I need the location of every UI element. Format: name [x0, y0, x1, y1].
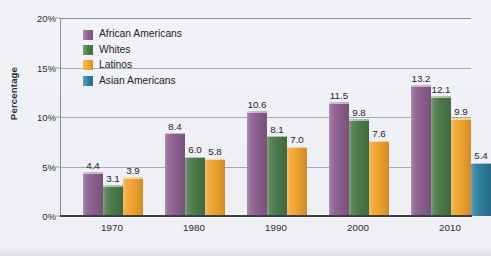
bar-cap [267, 136, 287, 138]
bar-african-americans-1990: 10.6 [247, 111, 267, 216]
bar-cap [349, 119, 369, 121]
bar-cap [185, 157, 205, 159]
y-tick-mark [53, 117, 60, 118]
bar-value-label: 3.1 [106, 174, 120, 184]
y-tick-mark [53, 166, 60, 167]
bar-cap [369, 141, 389, 143]
bar-cap [329, 102, 349, 104]
bar-cap [103, 185, 123, 187]
x-tick-label-1970: 1970 [101, 222, 123, 233]
bar-asian-americans-2010: 5.4 [471, 163, 491, 216]
y-tick-mark [53, 67, 60, 68]
bar-cap [83, 172, 103, 174]
x-tick-label-2010: 2010 [439, 222, 461, 233]
bar-value-label: 5.4 [474, 151, 488, 161]
bar-cap [471, 163, 491, 165]
bar-cap [451, 118, 471, 120]
y-tick-label: 10% [4, 112, 56, 123]
bar-cap [287, 147, 307, 149]
bar-value-label: 7.6 [372, 129, 386, 139]
bar-value-label: 4.4 [86, 161, 100, 171]
x-axis-baseline [60, 215, 472, 217]
bar-whites-1970: 3.1 [103, 185, 123, 216]
legend-swatch-icon [83, 30, 93, 40]
bar-cap [205, 159, 225, 161]
y-tick-label: 15% [4, 62, 56, 73]
bar-value-label: 8.4 [168, 122, 182, 132]
bar-value-label: 9.9 [454, 107, 468, 117]
legend-label: Latinos [99, 60, 132, 70]
bar-cap [431, 96, 451, 98]
page-edge-shading [0, 246, 491, 256]
x-tick-label-1980: 1980 [183, 222, 205, 233]
bar-cap [411, 85, 431, 87]
bar-african-americans-1970: 4.4 [83, 172, 103, 216]
bar-value-label: 6.0 [188, 145, 202, 155]
bar-value-label: 3.9 [126, 166, 140, 176]
legend-swatch-icon [83, 76, 93, 86]
y-tick-label: 5% [4, 161, 56, 172]
bar-whites-2010: 12.1 [431, 96, 451, 216]
y-tick-mark [53, 216, 60, 217]
bar-value-label: 5.8 [208, 147, 222, 157]
y-tick-label: 20% [4, 13, 56, 24]
bar-whites-2000: 9.8 [349, 119, 369, 216]
bar-african-americans-2010: 13.2 [411, 85, 431, 216]
bar-latinos-1980: 5.8 [205, 159, 225, 216]
bar-value-label: 12.1 [431, 85, 450, 95]
y-tick-label: 0% [4, 211, 56, 222]
chart-legend: African AmericansWhitesLatinosAsian Amer… [83, 28, 182, 87]
legend-swatch-icon [83, 60, 93, 70]
legend-label: Asian Americans [99, 76, 176, 86]
bar-african-americans-1980: 8.4 [165, 133, 185, 216]
bar-whites-1990: 8.1 [267, 136, 287, 216]
bar-value-label: 9.8 [352, 108, 366, 118]
legend-swatch-icon [83, 45, 93, 55]
bar-cap [247, 111, 267, 113]
bar-value-label: 8.1 [270, 125, 284, 135]
bar-latinos-2010: 9.9 [451, 118, 471, 216]
legend-item-whites: Whites [83, 43, 182, 56]
x-tick-label-2000: 2000 [347, 222, 369, 233]
bar-whites-1980: 6.0 [185, 157, 205, 216]
y-tick-mark [53, 18, 60, 19]
y-axis-ticks: 0%5%10%15%20% [0, 0, 56, 256]
bar-latinos-1970: 3.9 [123, 177, 143, 216]
bar-african-americans-2000: 11.5 [329, 102, 349, 216]
legend-item-african-americans: African Americans [83, 28, 182, 41]
bar-cap [123, 177, 143, 179]
legend-label: African Americans [99, 29, 182, 39]
bar-value-label: 11.5 [330, 91, 348, 101]
bar-value-label: 13.2 [411, 74, 430, 84]
legend-item-latinos: Latinos [83, 59, 182, 72]
bar-value-label: 10.6 [247, 100, 266, 110]
bar-latinos-1990: 7.0 [287, 147, 307, 216]
x-tick-label-1990: 1990 [265, 222, 287, 233]
legend-label: Whites [99, 45, 130, 55]
bar-cap [165, 133, 185, 135]
gridline-20% [61, 18, 471, 19]
bar-value-label: 7.0 [290, 135, 304, 145]
bar-chart: Percentage 0%5%10%15%20% 4.43.13.98.46.0… [0, 0, 491, 256]
bar-latinos-2000: 7.6 [369, 141, 389, 216]
legend-item-asian-americans: Asian Americans [83, 74, 182, 87]
